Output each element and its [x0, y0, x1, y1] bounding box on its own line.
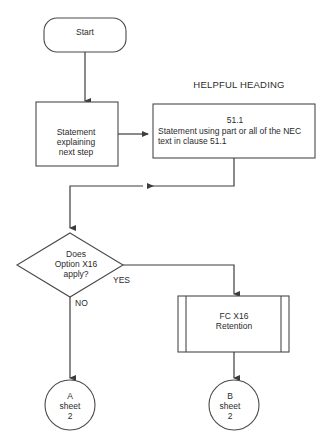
edge-merge-to-decision: [70, 186, 143, 228]
node-process-left-shape[interactable]: [36, 102, 118, 166]
node-decision-shape[interactable]: [17, 233, 123, 297]
flowchart-svg: [0, 0, 333, 435]
node-process-right-shape[interactable]: [153, 104, 315, 158]
edge-decision-yes: [123, 265, 234, 294]
node-connector-b-shape[interactable]: [209, 380, 259, 430]
node-predefined-shape[interactable]: [178, 296, 289, 352]
flowchart-canvas: Start HELPFUL HEADING Statement explaini…: [0, 0, 333, 435]
edge-clause-to-merge: [148, 158, 234, 186]
node-connector-a-shape[interactable]: [45, 380, 95, 430]
node-start-shape[interactable]: [44, 18, 126, 52]
